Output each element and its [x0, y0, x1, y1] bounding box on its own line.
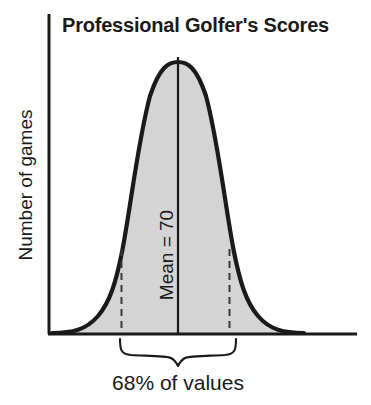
y-axis-label: Number of games	[16, 109, 35, 260]
interval-brace	[120, 339, 236, 366]
normal-distribution-figure: Professional Golfer's Scores Number of g…	[0, 0, 371, 405]
plot-area	[0, 0, 371, 405]
mean-annotation-label: Mean = 70	[157, 210, 176, 300]
interval-caption: 68% of values	[112, 372, 244, 393]
page-title: Professional Golfer's Scores	[62, 15, 329, 35]
